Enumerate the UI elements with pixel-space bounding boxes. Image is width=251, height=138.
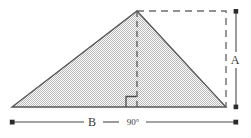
height-dimension-top-dot <box>234 9 239 14</box>
height-dimension-bottom-dot <box>234 105 239 110</box>
geometry-diagram: A B 90° <box>0 0 251 138</box>
height-label: A <box>228 52 242 68</box>
base-dimension-right-dot <box>233 120 238 125</box>
base-label: B <box>85 115 99 129</box>
right-angle-label: 90° <box>121 117 145 128</box>
base-dimension-left-dot <box>10 120 15 125</box>
shaded-triangle <box>12 11 226 107</box>
